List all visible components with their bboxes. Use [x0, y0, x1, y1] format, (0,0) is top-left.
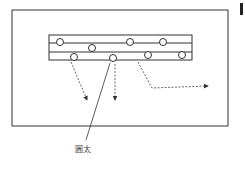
log-circle: [145, 52, 152, 59]
arrow-down-left: [71, 62, 87, 100]
log-rack-diagram: [0, 0, 245, 176]
log-circle: [57, 39, 64, 46]
log-circle: [110, 55, 117, 62]
log-circle: [160, 39, 167, 46]
log-label: 圓太: [75, 146, 91, 154]
log-circle: [179, 52, 186, 59]
arrow-right: [138, 62, 208, 88]
outer-frame: [12, 10, 228, 126]
outer-frame-rect: [12, 10, 228, 126]
corner-marker: [240, 3, 243, 15]
log-circle: [71, 54, 78, 61]
leader-line-stroke: [86, 63, 110, 140]
log-circle: [127, 39, 134, 46]
logs: [57, 39, 186, 62]
log-circle: [89, 45, 96, 52]
movement-arrows: [71, 62, 208, 100]
leader-line: [86, 63, 110, 140]
